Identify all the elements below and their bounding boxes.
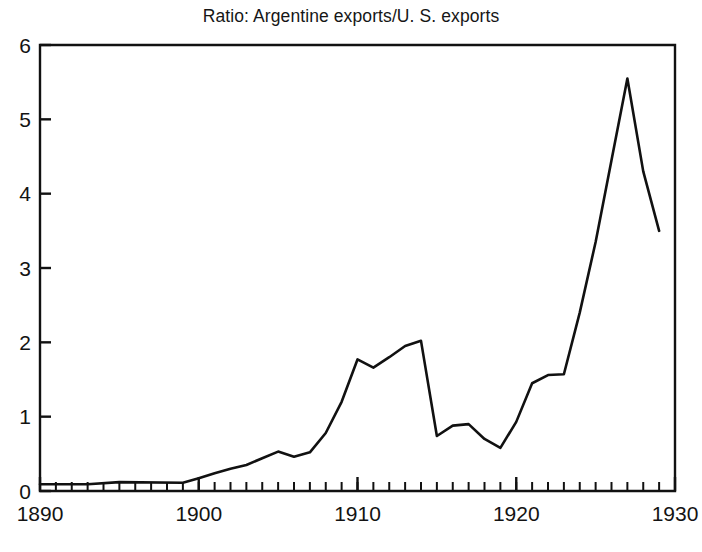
x-tick-label-1890: 1890 <box>17 502 64 525</box>
y-tick-label-1: 1 <box>19 405 31 428</box>
axes <box>40 45 675 491</box>
data-series-line <box>40 78 659 484</box>
chart-figure: Ratio: Argentine exports/U. S. exports 0… <box>0 0 702 552</box>
y-tick-label-2: 2 <box>19 331 31 354</box>
x-tick-label-1900: 1900 <box>175 502 222 525</box>
y-tick-label-3: 3 <box>19 257 31 280</box>
axis-frame <box>40 45 675 491</box>
x-axis-tick-labels: 18901900191019201930 <box>17 502 699 525</box>
y-axis-ticks <box>40 45 51 491</box>
y-axis-tick-labels: 0123456 <box>19 34 31 503</box>
y-tick-label-5: 5 <box>19 108 31 131</box>
x-tick-label-1910: 1910 <box>334 502 381 525</box>
y-tick-label-6: 6 <box>19 34 31 57</box>
line-chart-plot: 0123456 18901900191019201930 <box>0 0 702 552</box>
x-tick-label-1930: 1930 <box>652 502 699 525</box>
x-tick-label-1920: 1920 <box>493 502 540 525</box>
y-tick-label-0: 0 <box>19 480 31 503</box>
y-tick-label-4: 4 <box>19 182 31 205</box>
